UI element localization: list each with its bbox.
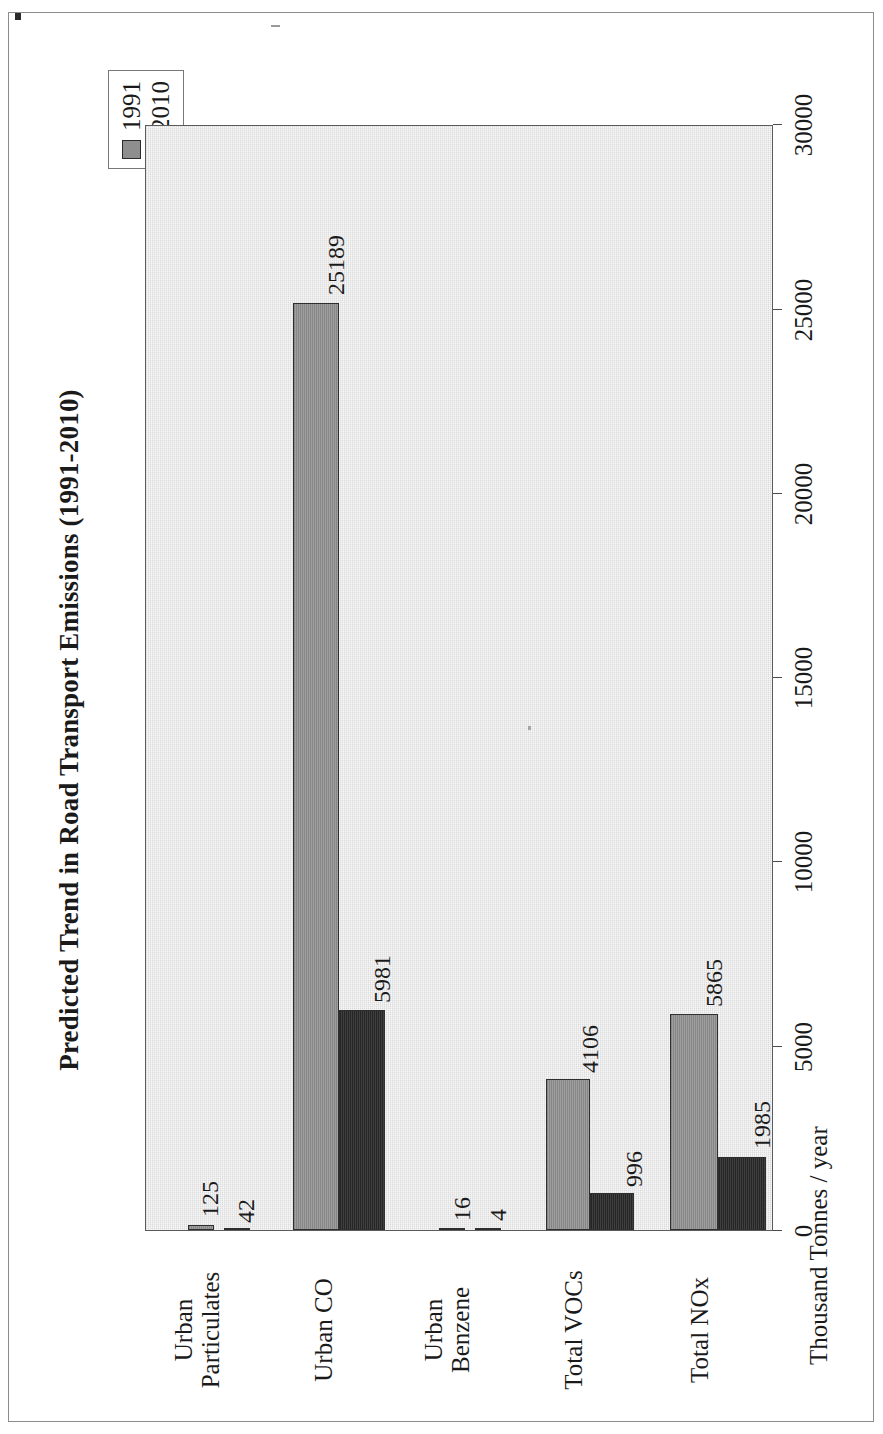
bar-total-vocs-1991[interactable] (546, 1079, 590, 1230)
bar-value-particulates-1991: 125 (198, 1181, 222, 1217)
category-label-urban-benzene: Urban Benzene (420, 1239, 474, 1421)
category-label-line1: Urban (170, 1239, 197, 1421)
bar-total-vocs-2010[interactable] (590, 1193, 634, 1230)
category-label-line2: Particulates (197, 1239, 224, 1421)
legend-label-2010: 2010 (148, 81, 173, 131)
category-label-line2: Benzene (447, 1239, 474, 1421)
value-label-0: 0 (790, 1161, 818, 1301)
bar-value-nox-2010: 1985 (750, 1101, 774, 1149)
bar-value-co-2010: 5981 (370, 955, 394, 1003)
category-label-line1: Total NOx (686, 1239, 713, 1421)
legend-swatch-1991-icon (122, 140, 141, 159)
category-label-total-vocs: Total VOCs (560, 1239, 587, 1421)
value-tick-30000 (773, 124, 782, 125)
category-label-total-nox: Total NOx (686, 1239, 713, 1421)
value-tick-15000 (773, 677, 782, 678)
legend-label-1991: 1991 (119, 81, 144, 131)
value-tick-0 (773, 1230, 782, 1231)
bar-value-vocs-1991: 4106 (578, 1025, 602, 1073)
value-label-15000: 15000 (790, 608, 818, 748)
value-tick-20000 (773, 493, 782, 494)
scan-artifact-edge-mark (271, 25, 280, 27)
scanned-page-frame: Predicted Trend in Road Transport Emissi… (8, 12, 874, 1422)
value-label-5000: 5000 (790, 977, 818, 1117)
bar-value-vocs-2010: 996 (622, 1151, 646, 1187)
scan-artifact-speck (15, 13, 21, 20)
category-label-urban-co: Urban CO (310, 1239, 337, 1421)
legend-item-1991: 1991 (117, 81, 146, 159)
bar-value-co-1991: 25189 (324, 235, 348, 295)
bar-urban-co-1991[interactable] (293, 303, 339, 1230)
chart-title: Predicted Trend in Road Transport Emissi… (54, 29, 85, 1431)
bar-urban-particulates-1991[interactable] (188, 1225, 214, 1230)
value-label-20000: 20000 (790, 424, 818, 564)
category-label-urban-particulates: Urban Particulates (170, 1239, 224, 1421)
bar-value-benzene-2010: 4 (486, 1209, 510, 1221)
bar-urban-co-2010[interactable] (339, 1010, 385, 1230)
bar-urban-benzene-1991[interactable] (439, 1228, 465, 1230)
bar-chart-figure: Predicted Trend in Road Transport Emissi… (20, 29, 880, 1431)
bar-group-urban-benzene (397, 126, 523, 1230)
category-label-line1: Urban CO (310, 1239, 337, 1421)
bar-group-total-nox (648, 126, 774, 1230)
bar-value-particulates-2010: 42 (234, 1199, 258, 1223)
bar-total-nox-2010[interactable] (718, 1157, 766, 1230)
category-label-line1: Urban (420, 1239, 447, 1421)
bar-urban-particulates-2010[interactable] (224, 1228, 250, 1230)
bar-urban-benzene-2010[interactable] (475, 1228, 501, 1230)
rotated-figure-container: Predicted Trend in Road Transport Emissi… (20, 29, 880, 1431)
value-label-25000: 25000 (790, 240, 818, 380)
value-label-30000: 30000 (790, 55, 818, 195)
value-tick-25000 (773, 309, 782, 310)
bar-value-nox-1991: 5865 (702, 959, 726, 1007)
bar-group-urban-particulates (146, 126, 272, 1230)
bar-value-benzene-1991: 16 (450, 1197, 474, 1221)
value-tick-5000 (773, 1046, 782, 1047)
value-tick-10000 (773, 861, 782, 862)
bar-total-nox-1991[interactable] (670, 1014, 718, 1230)
category-label-line1: Total VOCs (560, 1239, 587, 1421)
plot-area (145, 125, 773, 1231)
value-label-10000: 10000 (790, 792, 818, 932)
